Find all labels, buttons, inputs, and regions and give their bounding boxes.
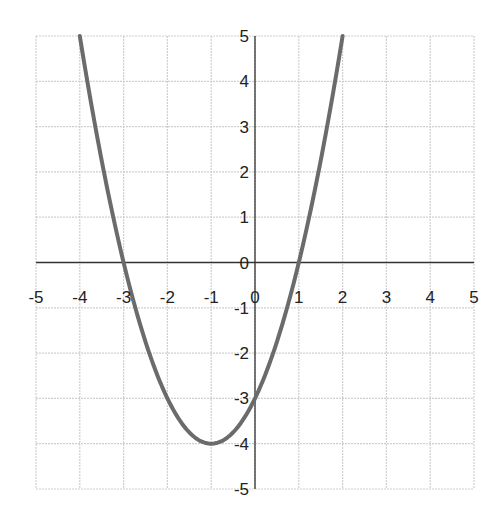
y-tick-label: -5: [234, 480, 249, 499]
parabola-chart: -5-4-3-2-1012345 543210-1-2-3-4-5: [0, 0, 500, 518]
y-tick-label: -3: [234, 389, 249, 408]
y-tick-label: 5: [240, 27, 249, 46]
x-tick-label: 3: [382, 288, 391, 307]
x-tick-labels: -5-4-3-2-1012345: [28, 288, 478, 307]
x-tick-label: 2: [338, 288, 347, 307]
x-tick-label: 0: [250, 288, 259, 307]
y-tick-label: 4: [240, 72, 249, 91]
x-tick-label: -5: [28, 288, 43, 307]
x-tick-label: 5: [469, 288, 478, 307]
y-tick-label: 2: [240, 163, 249, 182]
y-tick-label: 3: [240, 118, 249, 137]
axes: [36, 36, 474, 489]
y-tick-label: -2: [234, 344, 249, 363]
y-tick-label: 0: [240, 254, 249, 273]
x-tick-label: -4: [72, 288, 87, 307]
x-tick-label: -2: [160, 288, 175, 307]
x-tick-label: 4: [425, 288, 434, 307]
x-tick-label: 1: [294, 288, 303, 307]
y-tick-label: 1: [240, 208, 249, 227]
y-tick-label: -1: [234, 299, 249, 318]
y-tick-label: -4: [234, 435, 249, 454]
x-tick-label: -1: [204, 288, 219, 307]
x-tick-label: -3: [116, 288, 131, 307]
